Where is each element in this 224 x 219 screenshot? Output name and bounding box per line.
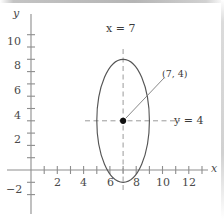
figure-container: y x 10 8 6 4 2 −2 2 4 6 8 10 12 x = 7 y … xyxy=(0,0,224,219)
y-tick-label-4: 4 xyxy=(14,110,21,121)
x-tick-label-12: 12 xyxy=(182,177,196,188)
vertical-line-equation-label: x = 7 xyxy=(106,23,135,34)
center-point-label: (7, 4) xyxy=(162,69,188,79)
horizontal-line-equation-label: y = 4 xyxy=(174,115,203,126)
center-point-marker xyxy=(120,118,126,124)
x-tick-label-8: 8 xyxy=(133,177,140,188)
x-tick-label-4: 4 xyxy=(80,177,87,188)
x-tick-label-6: 6 xyxy=(107,177,114,188)
y-tick-label-10: 10 xyxy=(7,36,21,47)
y-axis-label: y xyxy=(13,8,19,19)
y-tick-label-minus2: −2 xyxy=(6,184,22,195)
x-axis-label: x xyxy=(211,163,217,174)
x-tick-label-10: 10 xyxy=(156,177,170,188)
x-tick-label-2: 2 xyxy=(54,177,61,188)
y-tick-label-6: 6 xyxy=(14,85,21,96)
leader-line xyxy=(126,78,164,118)
y-tick-label-8: 8 xyxy=(14,60,21,71)
y-tick-label-2: 2 xyxy=(14,134,21,145)
